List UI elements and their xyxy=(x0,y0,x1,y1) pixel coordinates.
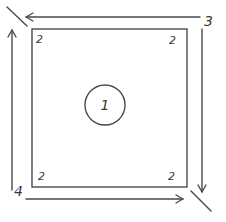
corner-label-bottom-left: 2 xyxy=(38,170,45,183)
diagonal-tick-top-left xyxy=(7,7,27,26)
corner-label-top-right: 2 xyxy=(169,34,176,47)
corner-label-top-left: 2 xyxy=(36,33,43,46)
diagonal-tick-bottom-right xyxy=(191,191,211,211)
arrow-label-4: 4 xyxy=(14,183,23,199)
inner-square xyxy=(32,29,187,187)
arrow-label-3: 3 xyxy=(204,13,213,29)
flow-diagram: 1 2 2 2 2 3 4 xyxy=(0,0,226,222)
corner-label-bottom-right: 2 xyxy=(168,170,175,183)
center-label: 1 xyxy=(101,97,110,113)
